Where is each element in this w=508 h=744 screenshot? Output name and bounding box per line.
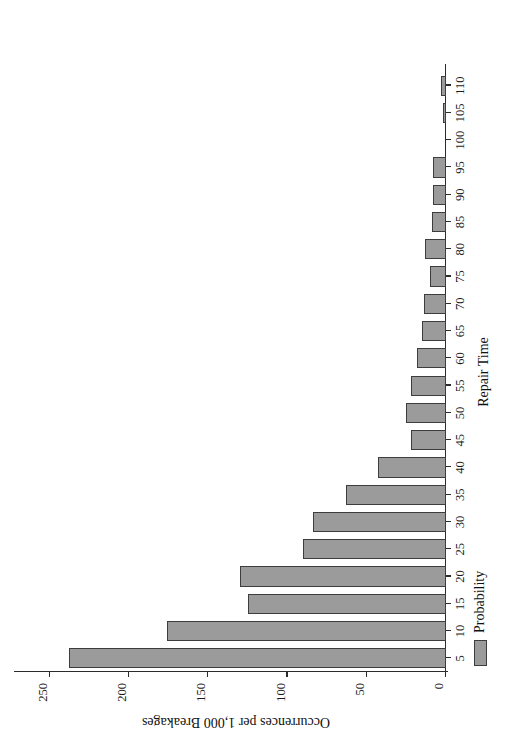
x-tick-50: [446, 412, 451, 413]
x-tick-5: [446, 657, 451, 658]
bar-20: [240, 566, 446, 586]
bar-95: [433, 157, 446, 177]
x-tick-label-110: 110: [453, 76, 468, 94]
y-tick-0: [445, 672, 446, 677]
x-tick-90: [446, 194, 451, 195]
bar-55: [411, 376, 446, 396]
x-tick-85: [446, 221, 451, 222]
x-tick-label-85: 85: [453, 216, 468, 229]
bar-75: [430, 266, 446, 286]
y-tick-50: [366, 672, 367, 677]
x-tick-label-65: 65: [453, 325, 468, 338]
y-tick-200: [128, 672, 129, 677]
x-tick-20: [446, 575, 451, 576]
bar-65: [422, 321, 446, 341]
legend-label-probability: Probability: [472, 571, 488, 633]
x-tick-label-25: 25: [453, 543, 468, 556]
x-tick-100: [446, 139, 451, 140]
value-axis-line: [14, 671, 448, 672]
x-tick-label-35: 35: [453, 488, 468, 501]
x-tick-label-30: 30: [453, 516, 468, 529]
x-tick-80: [446, 248, 451, 249]
y-tick-label-150: 150: [194, 683, 209, 702]
bar-chart-figure: 5101520253035404550556065707580859095100…: [0, 0, 508, 744]
x-tick-35: [446, 494, 451, 495]
x-tick-label-75: 75: [453, 270, 468, 283]
x-tick-label-70: 70: [453, 298, 468, 311]
x-tick-60: [446, 357, 451, 358]
bar-45: [411, 430, 446, 450]
y-tick-label-200: 200: [115, 683, 130, 702]
rotated-figure-container: 5101520253035404550556065707580859095100…: [0, 0, 508, 744]
x-tick-label-40: 40: [453, 461, 468, 474]
legend: Probability: [472, 571, 488, 666]
x-tick-10: [446, 630, 451, 631]
x-tick-25: [446, 548, 451, 549]
x-tick-label-95: 95: [453, 161, 468, 174]
x-tick-label-100: 100: [453, 131, 468, 150]
x-tick-40: [446, 466, 451, 467]
x-tick-label-45: 45: [453, 434, 468, 447]
plot-area: 5101520253035404550556065707580859095100…: [26, 72, 446, 672]
bar-40: [378, 457, 446, 477]
x-tick-95: [446, 166, 451, 167]
bar-70: [424, 294, 446, 314]
x-tick-label-105: 105: [453, 104, 468, 123]
x-tick-label-90: 90: [453, 188, 468, 201]
x-tick-label-55: 55: [453, 379, 468, 392]
y-tick-label-0: 0: [432, 683, 447, 689]
bar-90: [433, 185, 446, 205]
x-tick-75: [446, 275, 451, 276]
bar-80: [425, 239, 446, 259]
x-tick-105: [446, 112, 451, 113]
bar-25: [303, 539, 446, 559]
y-tick-label-100: 100: [273, 683, 288, 702]
bar-10: [167, 621, 446, 641]
y-tick-label-50: 50: [352, 683, 367, 696]
y-tick-250: [49, 672, 50, 677]
x-tick-70: [446, 303, 451, 304]
y-axis-title: Occurrences per 1,000 Breakages: [142, 714, 330, 730]
x-tick-15: [446, 603, 451, 604]
x-tick-label-20: 20: [453, 570, 468, 583]
bar-35: [346, 485, 446, 505]
y-tick-100: [286, 672, 287, 677]
x-tick-55: [446, 384, 451, 385]
bar-15: [248, 594, 446, 614]
bar-5: [69, 648, 446, 668]
bar-30: [313, 512, 446, 532]
bar-60: [417, 348, 446, 368]
legend-swatch-probability: [474, 640, 487, 666]
x-tick-label-80: 80: [453, 243, 468, 256]
x-tick-110: [446, 84, 451, 85]
bar-85: [432, 212, 446, 232]
x-tick-label-50: 50: [453, 407, 468, 420]
y-tick-150: [207, 672, 208, 677]
x-tick-65: [446, 330, 451, 331]
bar-50: [406, 403, 446, 423]
x-axis-title: Repair Time: [476, 337, 492, 407]
x-tick-label-15: 15: [453, 598, 468, 611]
x-tick-30: [446, 521, 451, 522]
x-tick-label-10: 10: [453, 625, 468, 638]
x-tick-45: [446, 439, 451, 440]
x-tick-label-60: 60: [453, 352, 468, 365]
bar-110: [441, 76, 446, 96]
y-tick-label-250: 250: [35, 683, 50, 702]
x-tick-label-5: 5: [453, 655, 468, 661]
